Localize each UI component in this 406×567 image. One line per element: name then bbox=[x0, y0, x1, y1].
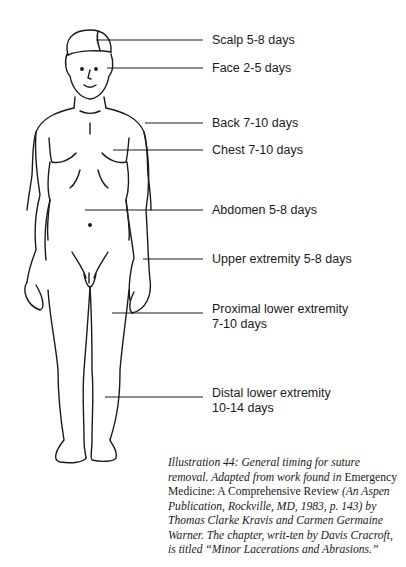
label-proximal-line1: Proximal lower extremity bbox=[212, 302, 348, 317]
label-distal-line2: 10-14 days bbox=[212, 401, 331, 416]
label-proximal-lower-extremity: Proximal lower extremity 7-10 days bbox=[212, 302, 348, 332]
caption-italic-intro: Illustration 44: General timing for sutu… bbox=[168, 456, 360, 484]
figure-caption: Illustration 44: General timing for sutu… bbox=[168, 456, 400, 558]
label-proximal-line2: 7-10 days bbox=[212, 317, 348, 332]
label-distal-lower-extremity: Distal lower extremity 10-14 days bbox=[212, 386, 331, 416]
face-outline bbox=[66, 54, 113, 99]
label-distal-line1: Distal lower extremity bbox=[212, 386, 331, 401]
label-chest: Chest 7-10 days bbox=[212, 143, 303, 158]
label-face: Face 2-5 days bbox=[212, 61, 291, 76]
label-abdomen: Abdomen 5-8 days bbox=[212, 203, 317, 218]
label-scalp: Scalp 5-8 days bbox=[212, 33, 295, 48]
left-leg-outline bbox=[48, 290, 86, 463]
label-back: Back 7-10 days bbox=[212, 116, 298, 131]
label-upper-extremity: Upper extremity 5-8 days bbox=[212, 252, 352, 267]
